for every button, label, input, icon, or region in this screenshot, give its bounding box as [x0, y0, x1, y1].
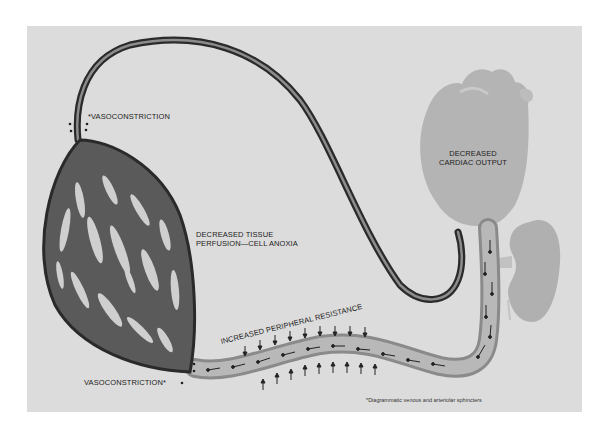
kidney-illustration: [497, 220, 560, 322]
footnote: *Diagrammatic venous and arteriolar sphi…: [366, 397, 482, 403]
vasoconstriction-top-label: *VASOCONSTRICTION: [88, 113, 170, 122]
tissue-perfusion-line2: PERFUSION—CELL ANOXIA: [196, 240, 298, 249]
heart-illustration: [420, 69, 533, 226]
capillary-bed: [44, 123, 196, 385]
cardiac-output-line2: CARDIAC OUTPUT: [428, 159, 518, 168]
vasoconstriction-bottom-label: VASOCONSTRICTION*: [84, 379, 166, 388]
tissue-perfusion-label: DECREASED TISSUE PERFUSION—CELL ANOXIA: [196, 231, 298, 248]
circulation-diagram: [0, 0, 604, 434]
cardiac-output-label: DECREASED CARDIAC OUTPUT: [428, 150, 518, 167]
